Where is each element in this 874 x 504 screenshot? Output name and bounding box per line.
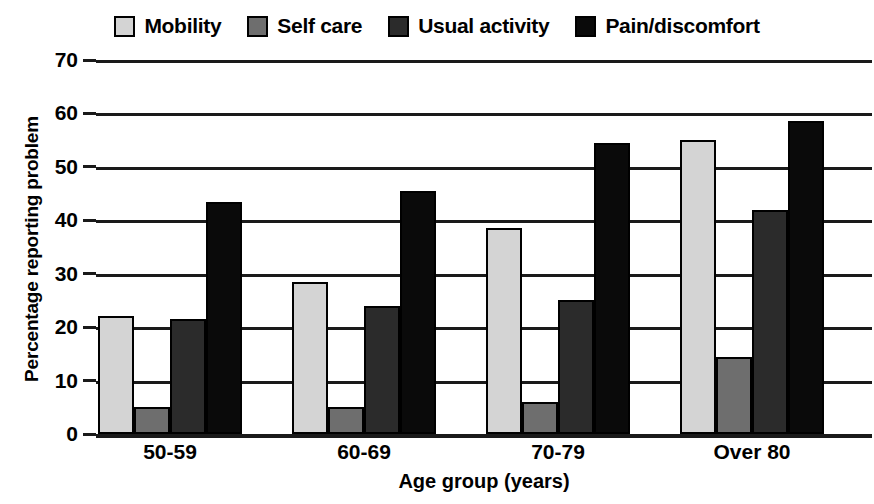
x-tick-label: 60-69 (292, 440, 436, 464)
bar[interactable] (400, 191, 436, 434)
legend-item[interactable]: Self care (247, 14, 362, 38)
y-tick-mark (83, 326, 96, 329)
legend-item[interactable]: Pain/discomfort (575, 14, 759, 38)
bar[interactable] (486, 228, 522, 434)
legend-item[interactable]: Usual activity (388, 14, 549, 38)
y-tick-mark (83, 59, 96, 62)
x-axis-baseline (96, 434, 872, 438)
bar[interactable] (558, 300, 594, 434)
legend-swatch-icon (114, 16, 135, 37)
bar[interactable] (594, 143, 630, 434)
x-tick-label: Over 80 (680, 440, 824, 464)
bar[interactable] (680, 140, 716, 434)
legend-swatch-icon (388, 16, 409, 37)
legend-item[interactable]: Mobility (114, 14, 221, 38)
bar[interactable] (134, 407, 170, 434)
x-axis-ticks: 50-5960-6970-79Over 80 (96, 440, 872, 470)
bar[interactable] (328, 407, 364, 434)
bar-chart: MobilitySelf careUsual activityPain/disc… (0, 0, 874, 504)
bar[interactable] (716, 357, 752, 434)
bars-layer (96, 60, 872, 434)
x-tick-label: 50-59 (98, 440, 242, 464)
y-tick-mark (83, 433, 96, 436)
bar[interactable] (364, 306, 400, 434)
bar[interactable] (292, 282, 328, 434)
bar-group (680, 60, 824, 434)
bar-group (292, 60, 436, 434)
bar[interactable] (206, 202, 242, 434)
bar[interactable] (170, 319, 206, 434)
legend-label: Usual activity (418, 14, 549, 38)
legend-label: Mobility (144, 14, 221, 38)
y-tick-mark (83, 272, 96, 275)
bar[interactable] (788, 121, 824, 434)
y-axis-ticks: 010203040506070 (40, 60, 96, 434)
bar[interactable] (98, 316, 134, 434)
y-tick-mark (83, 112, 96, 115)
bar-group (98, 60, 242, 434)
bar[interactable] (752, 210, 788, 434)
x-axis-title: Age group (years) (96, 470, 872, 493)
y-tick-mark (83, 165, 96, 168)
bar-group (486, 60, 630, 434)
bar[interactable] (522, 402, 558, 434)
y-tick-mark (83, 219, 96, 222)
legend-swatch-icon (575, 16, 596, 37)
x-tick-label: 70-79 (486, 440, 630, 464)
legend-swatch-icon (247, 16, 268, 37)
legend-label: Pain/discomfort (605, 14, 759, 38)
chart-legend: MobilitySelf careUsual activityPain/disc… (0, 8, 874, 44)
legend-label: Self care (277, 14, 362, 38)
y-tick-mark (83, 379, 96, 382)
